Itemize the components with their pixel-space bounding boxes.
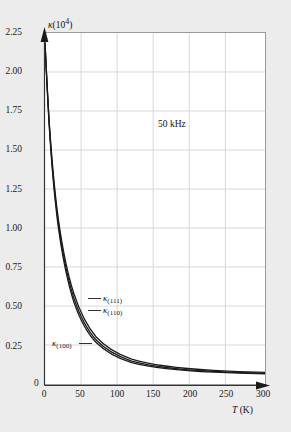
curve-label-k110-sub: (110) bbox=[107, 309, 122, 317]
frequency-annotation: 50 kHz bbox=[158, 119, 186, 129]
y-tick-label: 1.75 bbox=[5, 106, 22, 116]
curve-k110 bbox=[45, 42, 265, 373]
y-tick-label: 0.25 bbox=[5, 342, 22, 352]
x-tick-label: 200 bbox=[177, 390, 203, 400]
x-axis-title: T (K) bbox=[232, 405, 253, 415]
x-tick-label: 300 bbox=[250, 390, 276, 400]
x-tick-label: 100 bbox=[104, 390, 130, 400]
y-axis-scale-close: ) bbox=[69, 20, 72, 30]
curve-label-k111-sub: (111) bbox=[107, 297, 122, 305]
x-axis-unit: (K) bbox=[240, 405, 253, 415]
x-tick-label: 250 bbox=[213, 390, 239, 400]
y-axis-title: κ(104) bbox=[48, 17, 72, 30]
figure-container: κ(104) bbox=[0, 0, 291, 432]
y-tick-label: 2.25 bbox=[5, 28, 22, 38]
curve-k100 bbox=[45, 42, 265, 373]
x-tick-label: 150 bbox=[140, 390, 166, 400]
y-tick-label: 1.50 bbox=[5, 145, 22, 155]
x-axis-symbol: T bbox=[232, 405, 237, 415]
y-axis-scale-open: (10 bbox=[53, 20, 66, 30]
x-tick-label: 0 bbox=[33, 390, 55, 400]
curve-label-k100: κ(100) bbox=[52, 339, 72, 348]
y-tick-label: 0.50 bbox=[5, 302, 22, 312]
data-curves bbox=[45, 33, 265, 384]
y-tick-label: 1.00 bbox=[5, 224, 22, 234]
y-tick-label: 0.75 bbox=[5, 263, 22, 273]
curve-label-k110: κ(110) bbox=[103, 306, 122, 315]
y-origin-label: 0 bbox=[34, 378, 39, 388]
plot-area bbox=[44, 32, 266, 385]
curve-k111 bbox=[45, 42, 265, 372]
y-tick-label: 1.25 bbox=[5, 185, 22, 195]
y-tick-label: 2.00 bbox=[5, 67, 22, 77]
x-tick-label: 50 bbox=[69, 390, 91, 400]
curve-label-k100-sub: (100) bbox=[56, 342, 71, 350]
curve-label-k111: κ(111) bbox=[103, 294, 122, 303]
